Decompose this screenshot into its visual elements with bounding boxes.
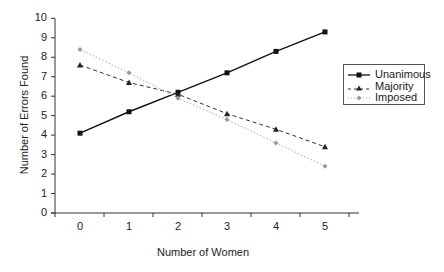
data-point-marker (323, 164, 328, 169)
legend-item-imposed: Imposed (344, 92, 426, 104)
data-point-marker (274, 49, 279, 54)
data-point-marker (225, 117, 230, 122)
data-point-marker (224, 111, 230, 117)
series-group (77, 29, 328, 168)
axes (51, 18, 359, 217)
y-tick-label: 7 (41, 70, 47, 82)
legend-label: Imposed (375, 91, 417, 103)
x-axis-label: Number of Women (0, 246, 406, 258)
x-tick-label: 4 (266, 220, 286, 232)
series-majority (77, 62, 328, 149)
y-tick-label: 5 (41, 109, 47, 121)
x-tick-label: 1 (119, 220, 139, 232)
data-point-marker (127, 109, 132, 114)
data-point-marker (274, 140, 279, 145)
y-tick-label: 3 (41, 148, 47, 160)
data-point-marker (127, 70, 132, 75)
data-point-marker (78, 47, 83, 52)
y-tick-label: 1 (41, 187, 47, 199)
data-point-marker (323, 29, 328, 34)
y-tick-label: 10 (35, 11, 47, 23)
y-tick-label: 9 (41, 31, 47, 43)
data-point-marker (225, 70, 230, 75)
series-unanimous (78, 29, 328, 135)
y-tick-label: 8 (41, 50, 47, 62)
x-tick-label: 3 (217, 220, 237, 232)
dotted-diamond-marker-icon (347, 92, 371, 104)
solid-square-marker-icon (347, 69, 371, 81)
legend: Unanimous Majority Imposed (343, 64, 425, 105)
x-tick-label: 2 (168, 220, 188, 232)
data-point-marker (78, 131, 83, 136)
x-tick-label: 0 (70, 220, 90, 232)
y-tick-label: 4 (41, 128, 47, 140)
y-tick-label: 2 (41, 167, 47, 179)
x-tick-label: 5 (315, 220, 335, 232)
data-point-marker (77, 62, 83, 68)
y-axis-label: Number of Errors Found (18, 56, 30, 175)
y-tick-label: 6 (41, 89, 47, 101)
series-imposed (78, 47, 328, 169)
y-tick-label: 0 (41, 206, 47, 218)
legend-label: Unanimous (375, 68, 431, 80)
data-point-marker (322, 144, 328, 150)
